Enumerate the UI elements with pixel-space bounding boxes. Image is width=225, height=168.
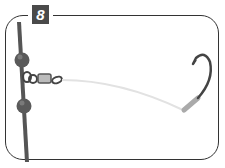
lower-bead-icon — [17, 99, 32, 114]
leader-line — [62, 80, 183, 110]
rig-illustration — [0, 0, 225, 168]
hook-icon — [184, 55, 211, 110]
main-line — [19, 22, 27, 162]
upper-bead-icon — [15, 53, 30, 68]
swivel-icon — [23, 72, 63, 85]
